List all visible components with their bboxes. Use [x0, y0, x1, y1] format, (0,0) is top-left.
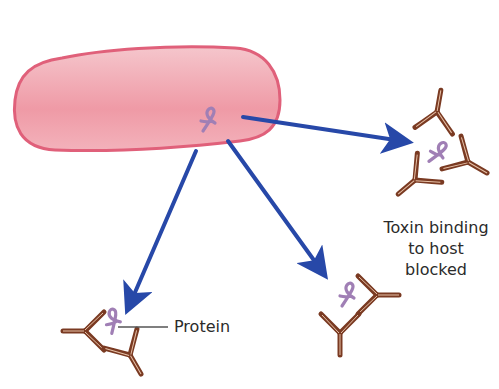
- arrow-to-bottom-left: [130, 151, 196, 304]
- antibody-cluster-bottom-left: [63, 308, 157, 384]
- toxin-blocked-line-2: to host: [372, 238, 499, 259]
- toxin-blocked-line-3: blocked: [372, 259, 499, 280]
- antibody-icon: [358, 276, 399, 314]
- toxin-blocked-label: Toxin binding to host blocked: [372, 217, 499, 280]
- antibody-cluster-right: [386, 87, 497, 209]
- toxin-blocked-line-1: Toxin binding: [372, 217, 499, 238]
- antibody-icon: [415, 87, 460, 134]
- toxin-bound-icon: [427, 139, 448, 165]
- antibody-icon: [386, 153, 442, 208]
- arrow-to-bottom-right: [228, 141, 321, 270]
- antibody-icon: [442, 136, 497, 189]
- antibody-icon: [321, 314, 359, 355]
- toxin-neutralization-diagram: [0, 0, 499, 389]
- antibody-cluster-bottom-right: [321, 276, 399, 355]
- antibody-icon: [63, 312, 104, 350]
- protein-label: Protein: [174, 316, 230, 337]
- toxin-bound-icon: [340, 283, 354, 306]
- antibody-icon: [104, 329, 157, 384]
- bacterium-cell: [14, 47, 280, 151]
